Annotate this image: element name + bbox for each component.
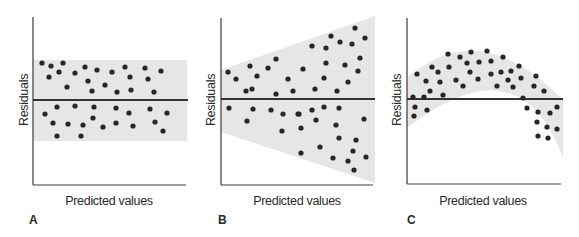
data-point: [554, 104, 559, 109]
data-point: [114, 89, 119, 94]
data-point: [225, 69, 230, 74]
data-point: [273, 91, 278, 96]
data-point: [361, 116, 366, 121]
data-point: [152, 119, 157, 124]
data-point: [60, 60, 65, 65]
data-point: [345, 158, 350, 163]
data-point: [547, 110, 552, 115]
data-point: [91, 104, 96, 109]
data-point: [94, 67, 99, 72]
data-point: [464, 60, 469, 65]
data-point: [544, 124, 549, 129]
data-point: [336, 105, 341, 110]
data-point: [498, 69, 503, 74]
data-point: [313, 117, 318, 122]
data-point: [500, 54, 505, 59]
data-point: [435, 69, 440, 74]
data-point: [285, 76, 290, 81]
data-point: [300, 66, 305, 71]
data-point: [48, 63, 53, 68]
x-axis-label: Predicted values: [439, 194, 527, 208]
data-point: [290, 88, 295, 93]
data-point: [296, 111, 301, 116]
data-point: [56, 69, 61, 74]
data-point: [421, 94, 426, 99]
data-point: [554, 126, 559, 131]
data-point: [363, 154, 368, 159]
data-point: [126, 110, 131, 115]
x-axis-label: Predicted values: [253, 194, 341, 208]
data-point: [321, 75, 326, 80]
data-point: [353, 137, 358, 142]
data-point: [518, 75, 523, 80]
data-point: [46, 74, 51, 79]
data-point: [64, 84, 69, 89]
data-point: [158, 68, 163, 73]
y-axis-label: Residuals: [204, 74, 218, 126]
data-point: [226, 105, 231, 110]
data-point: [330, 155, 335, 160]
data-point: [476, 59, 481, 64]
data-point: [279, 128, 284, 133]
data-point: [268, 107, 273, 112]
data-point: [130, 123, 135, 128]
data-point: [50, 120, 55, 125]
data-point: [265, 65, 270, 70]
data-point: [345, 79, 350, 84]
data-point: [531, 83, 536, 88]
data-point: [142, 65, 147, 70]
data-point: [336, 135, 341, 140]
data-point: [427, 88, 432, 93]
data-point: [309, 43, 314, 48]
data-point: [323, 45, 328, 50]
data-point: [410, 94, 415, 99]
data-point: [412, 104, 417, 109]
data-point: [424, 107, 429, 112]
data-point: [423, 78, 428, 83]
data-point: [414, 71, 419, 76]
data-point: [109, 69, 114, 74]
data-point: [122, 64, 127, 69]
data-point: [72, 103, 77, 108]
panel-letter: B: [218, 213, 227, 227]
data-point: [80, 122, 85, 127]
data-point: [54, 104, 59, 109]
data-point: [243, 88, 248, 93]
data-point: [535, 133, 540, 138]
data-point: [145, 76, 150, 81]
data-point: [457, 54, 462, 59]
data-point: [280, 111, 285, 116]
data-point: [102, 82, 107, 87]
data-point: [160, 128, 165, 133]
data-point: [273, 56, 278, 61]
data-point: [357, 55, 362, 60]
data-point: [151, 89, 156, 94]
data-point: [520, 95, 525, 100]
data-point: [321, 104, 326, 109]
data-point: [437, 79, 442, 84]
panel-letter: C: [407, 213, 416, 227]
data-point: [89, 88, 94, 93]
data-point: [164, 110, 169, 115]
data-point: [250, 106, 255, 111]
data-point: [533, 73, 538, 78]
data-point: [309, 107, 314, 112]
data-point: [78, 133, 83, 138]
data-point: [541, 88, 546, 93]
data-point: [39, 60, 44, 65]
data-point: [298, 150, 303, 155]
data-point: [85, 78, 90, 83]
data-point: [249, 86, 254, 91]
data-point: [545, 135, 550, 140]
data-point: [312, 86, 317, 91]
data-point: [535, 109, 540, 114]
data-point: [42, 111, 47, 116]
data-point: [510, 84, 515, 89]
data-point: [460, 83, 465, 88]
data-point: [484, 48, 489, 53]
data-point: [72, 70, 77, 75]
data-point: [65, 121, 70, 126]
data-point: [254, 73, 259, 78]
data-point: [350, 148, 355, 153]
y-axis-label: Residuals: [17, 74, 31, 126]
